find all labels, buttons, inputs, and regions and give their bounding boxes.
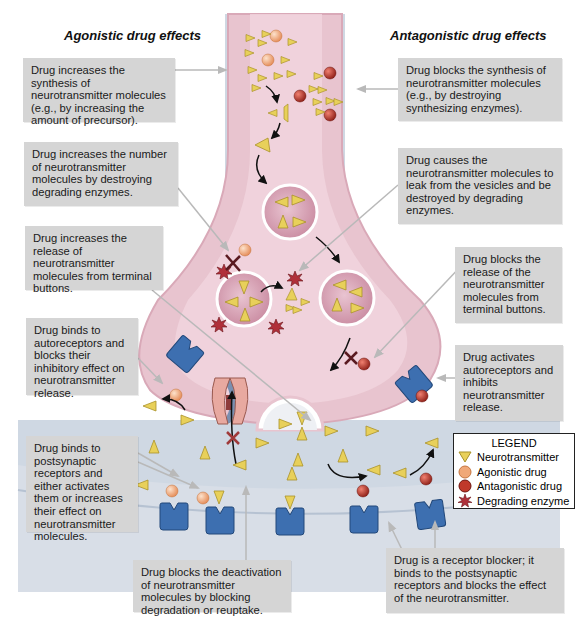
agonist-degrading-box: Drug increases the number of neurotransm… bbox=[24, 142, 178, 206]
legend-item-degrading-enzyme: Degrading enzyme bbox=[458, 494, 570, 509]
agonist-synthesis-box: Drug increases the synthesis of neurotra… bbox=[23, 58, 175, 122]
legend-label: Degrading enzyme bbox=[477, 494, 569, 508]
legend-item-neurotransmitter: Neurotransmitter bbox=[458, 450, 570, 465]
legend-title: LEGEND bbox=[458, 436, 570, 450]
legend-label: Agonistic drug bbox=[477, 465, 547, 479]
agonist-autoreceptor-box: Drug binds to autoreceptors and blocks t… bbox=[26, 318, 138, 395]
degrading-enzyme-star-icon bbox=[458, 494, 474, 508]
agonist-deactivation-box: Drug blocks the deactivation of neurotra… bbox=[133, 560, 291, 612]
legend-label: Neurotransmitter bbox=[477, 450, 559, 464]
antagonist-autoreceptor-box: Drug activates autoreceptors and inhibit… bbox=[455, 345, 563, 421]
antagonist-release-block-box: Drug blocks the release of the neurotran… bbox=[455, 247, 562, 323]
drug-effects-diagram: Agonistic drug effects Antagonistic drug… bbox=[0, 0, 582, 639]
legend-item-agonistic-drug: Agonistic drug bbox=[458, 465, 570, 480]
agonistic-drug-circle-icon bbox=[458, 465, 474, 479]
agonistic-heading: Agonistic drug effects bbox=[64, 28, 201, 43]
legend-label: Antagonistic drug bbox=[477, 479, 562, 493]
antagonist-synthesis-box: Drug blocks the synthesis of neurotransm… bbox=[398, 58, 562, 121]
agonist-release-box: Drug increases the release of neurotrans… bbox=[25, 226, 163, 290]
antagonistic-heading: Antagonistic drug effects bbox=[390, 28, 547, 43]
antagonistic-drug-circle-icon bbox=[458, 479, 474, 493]
agonist-postsynaptic-box: Drug binds to postsynaptic receptors and… bbox=[26, 436, 138, 532]
legend-item-antagonistic-drug: Antagonistic drug bbox=[458, 479, 570, 494]
legend: LEGEND Neurotransmitter Agonistic drug A… bbox=[453, 433, 575, 509]
antagonist-leak-box: Drug causes the neurotransmitter molecul… bbox=[398, 148, 562, 224]
antagonist-blocker-box: Drug is a receptor blocker; it binds to … bbox=[386, 548, 564, 613]
neurotransmitter-triangle-icon bbox=[458, 450, 474, 464]
